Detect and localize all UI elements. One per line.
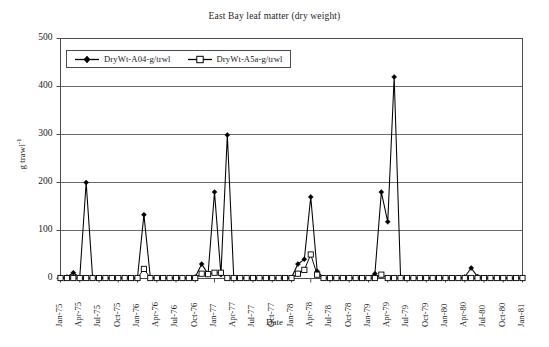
- data-point-marker-square: [501, 275, 506, 280]
- data-point-marker-square: [205, 272, 210, 277]
- y-tick-label-400: 400: [19, 80, 53, 90]
- data-point-marker-square: [520, 275, 525, 280]
- data-point-marker-square: [77, 275, 82, 280]
- data-point-marker-square: [122, 275, 127, 280]
- data-point-marker-square: [315, 272, 320, 277]
- data-point-marker-square: [340, 275, 345, 280]
- data-point-marker-diamond: [308, 194, 313, 199]
- data-point-marker-square: [84, 275, 89, 280]
- data-point-marker-square: [456, 275, 461, 280]
- open-square-icon: [187, 54, 213, 65]
- data-point-marker-square: [462, 275, 467, 280]
- data-point-marker-square: [116, 275, 121, 280]
- data-point-marker-square: [507, 275, 512, 280]
- data-point-marker-square: [141, 266, 146, 271]
- data-point-marker-square: [347, 275, 352, 280]
- data-point-marker-square: [64, 275, 69, 280]
- series-line: [61, 255, 523, 279]
- data-series-group: [58, 74, 525, 280]
- data-point-marker-square: [135, 275, 140, 280]
- data-point-marker-square: [327, 275, 332, 280]
- series-line: [61, 77, 523, 278]
- legend-entry-A04: DryWt-A04-g/trwl: [74, 54, 171, 65]
- chart-figure: East Bay leaf matter (dry weight) 010020…: [0, 0, 549, 347]
- data-point-marker-square: [109, 275, 114, 280]
- series-A5a: [58, 252, 525, 281]
- data-point-marker-square: [225, 275, 230, 280]
- data-point-marker-square: [417, 275, 422, 280]
- data-point-marker-square: [270, 275, 275, 280]
- data-point-marker-square: [148, 275, 153, 280]
- data-point-marker-square: [494, 275, 499, 280]
- gridlines-group: [61, 87, 523, 231]
- data-point-marker-square: [404, 275, 409, 280]
- data-point-marker-square: [321, 275, 326, 280]
- x-axis-title: Date: [0, 317, 549, 327]
- data-point-marker-square: [392, 275, 397, 280]
- data-point-marker-square: [424, 275, 429, 280]
- data-point-marker-square: [469, 275, 474, 280]
- data-point-marker-square: [90, 275, 95, 280]
- data-point-marker-square: [161, 275, 166, 280]
- y-axis-title-text: g trawl: [17, 144, 27, 169]
- data-point-marker-diamond: [379, 190, 384, 195]
- data-point-marker-square: [481, 275, 486, 280]
- data-point-marker-square: [398, 275, 403, 280]
- data-point-marker-square: [443, 275, 448, 280]
- data-point-marker-square: [186, 275, 191, 280]
- data-point-marker-square: [276, 275, 281, 280]
- legend-label: DryWt-A04-g/trwl: [104, 54, 171, 64]
- data-point-marker-square: [58, 275, 63, 280]
- data-point-marker-diamond: [84, 180, 89, 185]
- data-point-marker-square: [263, 275, 268, 280]
- data-point-marker-square: [411, 275, 416, 280]
- data-point-marker-square: [154, 275, 159, 280]
- data-point-marker-square: [449, 275, 454, 280]
- data-point-marker-square: [513, 275, 518, 280]
- legend-label: DryWt-A5a-g/trwl: [217, 54, 283, 64]
- y-tick-label-0: 0: [19, 272, 53, 282]
- y-axis-title: g trawl-1: [15, 119, 27, 189]
- data-point-marker-square: [372, 275, 377, 280]
- y-tick-marks-group: [57, 39, 61, 279]
- data-point-marker-square: [430, 275, 435, 280]
- data-point-marker-square: [128, 275, 133, 280]
- data-point-marker-square: [231, 275, 236, 280]
- data-point-marker-square: [218, 270, 223, 275]
- data-point-marker-diamond: [225, 132, 230, 137]
- y-tick-label-100: 100: [19, 224, 53, 234]
- data-point-marker-diamond: [141, 212, 146, 217]
- data-point-marker-diamond: [392, 74, 397, 79]
- filled-diamond-icon: [74, 54, 100, 65]
- data-point-marker-square: [295, 271, 300, 276]
- data-point-marker-square: [334, 275, 339, 280]
- data-point-marker-square: [199, 271, 204, 276]
- data-point-marker-square: [167, 275, 172, 280]
- plot-frame: [61, 39, 523, 279]
- data-point-marker-square: [250, 275, 255, 280]
- data-point-marker-square: [488, 275, 493, 280]
- data-point-marker-square: [244, 275, 249, 280]
- data-point-marker-square: [385, 275, 390, 280]
- data-point-marker-square: [193, 275, 198, 280]
- data-point-marker-square: [257, 275, 262, 280]
- data-point-marker-square: [366, 275, 371, 280]
- data-point-marker-square: [308, 252, 313, 257]
- data-point-marker-square: [302, 267, 307, 272]
- data-point-marker-square: [71, 275, 76, 280]
- chart-legend: DryWt-A04-g/trwlDryWt-A5a-g/trwl: [66, 50, 291, 68]
- data-point-marker-square: [289, 275, 294, 280]
- data-point-marker-diamond: [212, 190, 217, 195]
- data-point-marker-diamond: [385, 219, 390, 224]
- data-point-marker-square: [353, 275, 358, 280]
- data-point-marker-square: [180, 275, 185, 280]
- data-point-marker-square: [282, 275, 287, 280]
- data-point-marker-square: [475, 275, 480, 280]
- data-point-marker-square: [103, 275, 108, 280]
- data-point-marker-square: [238, 275, 243, 280]
- legend-entry-A5a: DryWt-A5a-g/trwl: [187, 54, 283, 65]
- y-tick-label-500: 500: [19, 32, 53, 42]
- series-A04: [58, 74, 525, 280]
- data-point-marker-square: [212, 270, 217, 275]
- data-point-marker-square: [379, 272, 384, 277]
